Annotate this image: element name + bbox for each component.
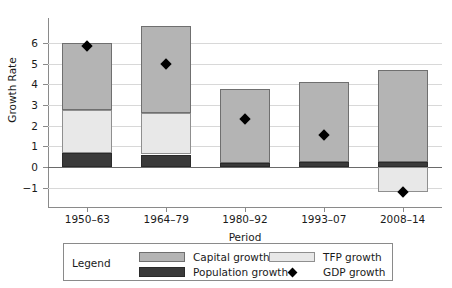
legend-item-gdp-growth: GDP growth xyxy=(269,266,385,278)
legend-title: Legend xyxy=(72,257,111,269)
x-axis-title: Period xyxy=(48,231,442,243)
y-tick-label: 5 xyxy=(8,59,38,70)
plot-area xyxy=(48,18,442,200)
y-tick-label: −1 xyxy=(8,183,38,194)
gdp-diamond-marker xyxy=(269,269,315,276)
capital-swatch xyxy=(139,252,185,262)
x-tick xyxy=(403,207,404,212)
x-tick-label: 1993–07 xyxy=(279,214,369,226)
bar-segment-capital xyxy=(141,26,191,113)
bar-segment-population xyxy=(62,153,112,166)
bar-segment-tfp xyxy=(141,113,191,154)
legend-label-capital: Capital growth xyxy=(193,251,270,263)
x-tick xyxy=(87,207,88,212)
bar-segment-population xyxy=(141,155,191,167)
bar-segment-tfp xyxy=(62,110,112,153)
y-tick-label: 6 xyxy=(8,38,38,49)
legend-label-tfp: TFP growth xyxy=(323,251,382,263)
legend-label-gdp: GDP growth xyxy=(323,266,385,278)
y-tick-label: 2 xyxy=(8,121,38,132)
bar-segment-population xyxy=(299,162,349,167)
y-tick-label: 1 xyxy=(8,141,38,152)
x-tick xyxy=(166,207,167,212)
x-tick-label: 1964–79 xyxy=(121,214,211,226)
legend: Legend Capital growth TFP growth Populat… xyxy=(63,243,393,281)
y-tick-label: 3 xyxy=(8,100,38,111)
y-tick-label: 0 xyxy=(8,162,38,173)
x-tick xyxy=(245,207,246,212)
chart-figure: Growth Rate Period −10123456 1950–631964… xyxy=(0,0,452,288)
x-tick-label: 2008–14 xyxy=(358,214,448,226)
bar-segment-capital xyxy=(220,89,270,162)
bar-segment-capital xyxy=(62,43,112,110)
legend-item-population-growth: Population growth xyxy=(139,266,288,278)
y-tick-label: 4 xyxy=(8,79,38,90)
tfp-swatch xyxy=(269,252,315,262)
bar-segment-population xyxy=(220,163,270,167)
population-swatch xyxy=(139,267,185,277)
x-tick xyxy=(324,207,325,212)
bar-segment-capital xyxy=(378,70,428,162)
legend-item-tfp-growth: TFP growth xyxy=(269,251,382,263)
legend-item-capital-growth: Capital growth xyxy=(139,251,270,263)
bar-segment-capital xyxy=(299,82,349,162)
x-tick-label: 1950–63 xyxy=(42,214,132,226)
x-tick-label: 1980–92 xyxy=(200,214,290,226)
